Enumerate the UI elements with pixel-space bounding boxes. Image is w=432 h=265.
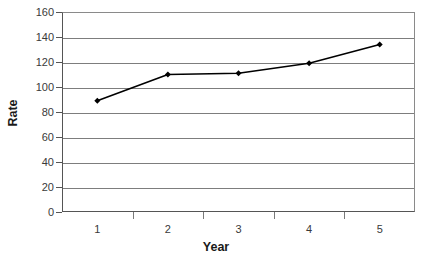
y-axis-tick-label: 160 [10,7,54,18]
y-axis-tick-label: 100 [10,82,54,93]
y-axis-tick-mark [56,162,62,163]
y-axis-tick-label: 140 [10,32,54,43]
gridline [63,113,414,114]
gridline [63,163,414,164]
gridline [63,138,414,139]
x-axis-tick-mark [274,212,275,219]
y-axis-tick-label: 0 [10,207,54,218]
y-axis-tick-mark [56,137,62,138]
x-axis-tick-label: 1 [77,224,117,235]
y-axis-tick-label: 120 [10,57,54,68]
y-axis-tick-mark [56,212,62,213]
y-axis-tick-label: 80 [10,107,54,118]
gridline [63,188,414,189]
y-axis-tick-mark [56,87,62,88]
gridline [63,38,414,39]
x-axis-tick-label: 4 [289,224,329,235]
y-axis-tick-label: 20 [10,182,54,193]
y-axis-tick-label: 40 [10,157,54,168]
gridline [63,63,414,64]
x-axis-title: Year [0,240,432,254]
x-axis-tick-label: 2 [148,224,188,235]
y-axis-tick-label: 60 [10,132,54,143]
y-axis-tick-mark [56,112,62,113]
y-axis-tick-labels: 020406080100120140160 [10,0,54,265]
line-chart: Rate 020406080100120140160 Year 12345 [0,0,432,265]
x-axis-tick-label: 5 [360,224,400,235]
x-axis-title-label: Year [203,240,229,254]
x-axis-tick-mark [133,212,134,219]
gridline [63,88,414,89]
x-axis-tick-mark [203,212,204,219]
y-axis-tick-mark [56,37,62,38]
plot-area [62,12,415,212]
y-axis-tick-mark [56,12,62,13]
x-axis-tick-mark [344,212,345,219]
x-axis-tick-label: 3 [219,224,259,235]
y-axis-tick-mark [56,62,62,63]
y-axis-tick-mark [56,187,62,188]
